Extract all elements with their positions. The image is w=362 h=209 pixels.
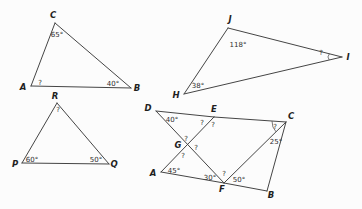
- angle-label-E-right: ?: [211, 121, 215, 129]
- angle-label-F-mid: ?: [222, 170, 226, 178]
- angle-label-C: 65°: [51, 31, 63, 39]
- angle-label-A: ?: [38, 79, 42, 87]
- vertex-label-C: C: [288, 111, 295, 121]
- vertex-label-G: G: [175, 140, 182, 150]
- angle-label-F-right: 50°: [233, 176, 245, 184]
- angle-label-J: 118°: [230, 41, 247, 49]
- angle-label-G-bottom: ?: [181, 152, 185, 160]
- edge-HI: [184, 57, 342, 94]
- angle-label-D: 40°: [166, 116, 178, 124]
- angle-label-A: 45°: [168, 167, 180, 175]
- angle-label-Q: 50°: [90, 156, 102, 164]
- vertex-label-A: A: [19, 82, 27, 92]
- triangle-abc: C A B 65° ? 40°: [19, 10, 141, 93]
- angle-label-F-left: 30°: [204, 174, 216, 182]
- edge-CF: [224, 122, 286, 183]
- vertex-label-Q: Q: [110, 159, 117, 169]
- triangle-hij: J I H 118° ? 38°: [172, 14, 349, 100]
- triangle-pqr: R P Q ? 60° 50°: [12, 91, 118, 169]
- angle-label-H: 38°: [192, 82, 204, 90]
- edge-DE: [156, 111, 214, 117]
- geometry-worksheet: C A B 65° ? 40° J I H 118° ? 38° R P: [0, 0, 362, 209]
- edge-EC: [214, 117, 286, 122]
- angle-label-I: ?: [319, 49, 323, 57]
- geometry-diagram-canvas: C A B 65° ? 40° J I H 118° ? 38° R P: [0, 0, 362, 209]
- angle-label-C-bottom: 25°: [270, 138, 282, 146]
- vertex-label-E: E: [211, 104, 217, 114]
- vertex-label-I: I: [346, 52, 349, 62]
- angle-label-G-right: ?: [194, 144, 198, 152]
- edge-CB: [267, 122, 286, 191]
- angle-label-R: ?: [56, 106, 60, 114]
- vertex-label-R: R: [52, 91, 59, 101]
- vertex-label-B: B: [268, 190, 274, 200]
- vertex-label-J: J: [226, 14, 231, 24]
- vertex-label-A: A: [149, 168, 157, 178]
- angle-label-B: 40°: [107, 80, 119, 88]
- angle-label-C-top: ?: [273, 123, 277, 131]
- vertex-label-F: F: [219, 184, 225, 194]
- edge-FB: [224, 183, 267, 191]
- angle-label-G-top: ?: [184, 135, 188, 143]
- vertex-label-P: P: [12, 159, 19, 169]
- edge-RQ: [57, 103, 109, 164]
- vertex-label-D: D: [144, 103, 151, 113]
- vertex-label-B: B: [134, 83, 140, 93]
- angle-label-E-left: ?: [200, 119, 204, 127]
- edge-JH: [184, 28, 228, 94]
- edge-CB: [55, 23, 131, 88]
- vertex-label-C: C: [50, 10, 57, 20]
- figure-defc-ab: D E C G A F B 40° ? ? ? 25° ? ? ? 45° 30…: [144, 103, 294, 200]
- vertex-label-H: H: [172, 90, 179, 100]
- angle-label-P: 60°: [26, 156, 38, 164]
- angle-arc-I: [328, 54, 329, 60]
- edge-RP: [22, 103, 57, 163]
